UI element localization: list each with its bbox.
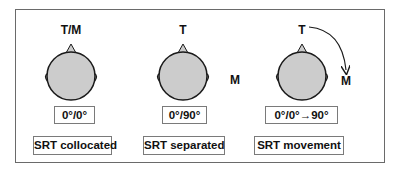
target-label: T xyxy=(295,23,309,37)
condition-box: SRT movement xyxy=(254,136,344,155)
masker-label: M xyxy=(339,74,353,88)
masker-label: M xyxy=(228,73,242,87)
condition-box: SRT separated xyxy=(143,136,225,155)
head-icon-movement xyxy=(277,44,328,100)
angle-box: 0°/0° xyxy=(54,106,95,124)
target-label: T xyxy=(176,23,190,37)
head-icon-separated xyxy=(158,44,209,100)
target-masker-label: T/M xyxy=(56,23,86,37)
condition-box: SRT collocated xyxy=(33,136,112,155)
angle-box: 0°/90° xyxy=(162,106,207,124)
head-icon-collocated xyxy=(46,44,97,100)
angle-box: 0°/0°→90° xyxy=(265,106,338,124)
